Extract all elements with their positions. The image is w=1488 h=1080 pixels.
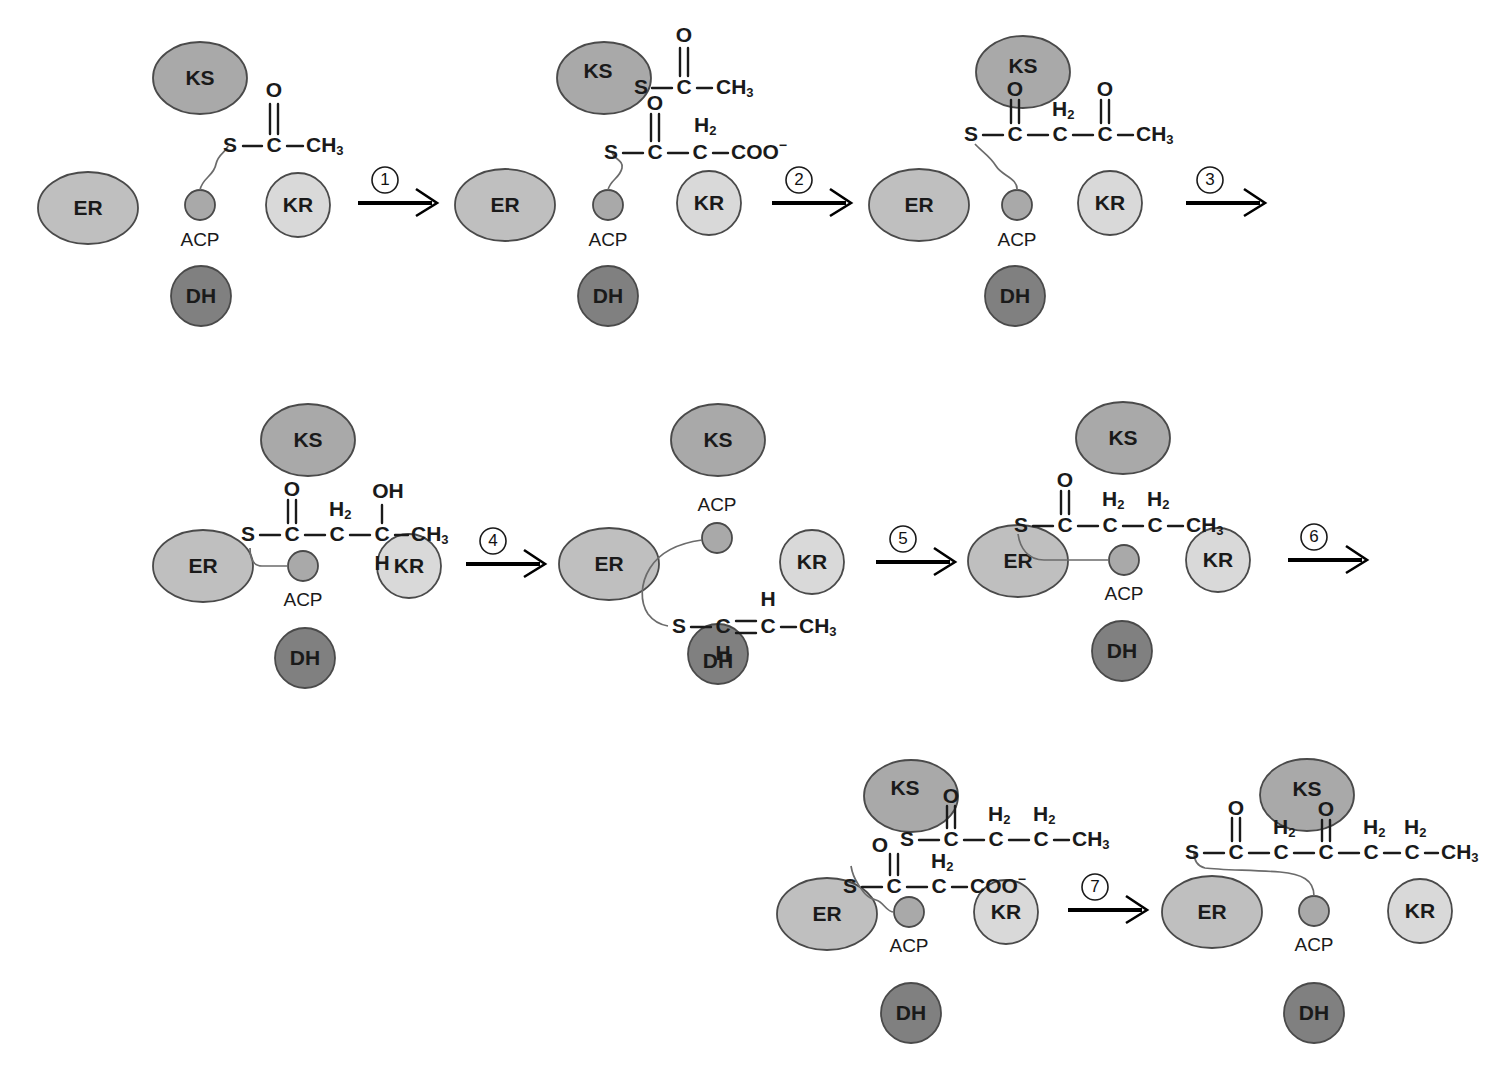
domain-ks-label: KS <box>583 59 612 82</box>
step-arrow-6[interactable]: 6 <box>1288 524 1367 573</box>
atom-c1: C <box>715 614 730 637</box>
domain-acp-label: ACP <box>889 935 928 956</box>
step-1-number: 1 <box>380 170 389 189</box>
domain-kr-label: KR <box>991 900 1021 923</box>
atom-s: S <box>672 614 686 637</box>
domain-acp-shape[interactable] <box>894 897 924 927</box>
step-2-number: 2 <box>794 170 803 189</box>
atom-c3: C <box>374 522 389 545</box>
atom-c3: C <box>1318 840 1333 863</box>
atom-ch3-top: CH3 <box>1072 827 1110 853</box>
atom-o1: O <box>1057 468 1073 491</box>
atom-s: S <box>1014 513 1028 536</box>
atom-c1: C <box>1057 513 1072 536</box>
atom-c2: C <box>1102 513 1117 536</box>
domain-acp-label: ACP <box>588 229 627 250</box>
group-h2: H2 <box>694 113 716 139</box>
atom-s: S <box>843 874 857 897</box>
atom-c3-top: C <box>1033 827 1048 850</box>
atom-c2-top: C <box>988 827 1003 850</box>
domain-kr-label: KR <box>797 550 827 573</box>
domain-ks-label: KS <box>890 776 919 799</box>
domain-kr-label: KR <box>694 191 724 214</box>
domain-ks-label: KS <box>703 428 732 451</box>
domain-er-label: ER <box>812 902 841 925</box>
atom-c3: C <box>1097 122 1112 145</box>
domain-acp-shape[interactable] <box>1299 896 1329 926</box>
group-h2: H2 <box>1052 97 1074 123</box>
atom-ch3: CH3 <box>411 522 449 548</box>
step-arrow-4[interactable]: 4 <box>466 528 545 577</box>
group-h2-c: H2 <box>1404 815 1426 841</box>
group-h2: H2 <box>329 497 351 523</box>
atom-h-below: H <box>374 551 389 574</box>
atom-o1: O <box>647 91 663 114</box>
domain-dh-label: DH <box>1000 284 1030 307</box>
acp-tether <box>250 548 288 566</box>
group-h2-top-b: H2 <box>1033 802 1055 828</box>
domain-ks-label: KS <box>1008 54 1037 77</box>
atom-o1: O <box>266 78 282 101</box>
atom-o2: O <box>1318 797 1334 820</box>
domain-acp-shape[interactable] <box>185 190 215 220</box>
atom-c1: C <box>647 140 662 163</box>
domain-er-label: ER <box>188 554 217 577</box>
step-arrow-3[interactable]: 3 <box>1186 167 1265 216</box>
atom-c-top: C <box>676 75 691 98</box>
step-arrow-7[interactable]: 7 <box>1068 874 1147 923</box>
step-arrow-1[interactable]: 1 <box>358 167 437 216</box>
atom-ch3: CH3 <box>1136 122 1174 148</box>
group-h2: H2 <box>931 849 953 875</box>
domain-dh-label: DH <box>593 284 623 307</box>
atom-o1: O <box>1007 77 1023 100</box>
domain-acp-shape[interactable] <box>288 551 318 581</box>
group-coo: COO− <box>731 137 787 163</box>
step-arrow-2[interactable]: 2 <box>772 167 851 216</box>
step-6-number: 6 <box>1309 527 1318 546</box>
atom-o-top: O <box>676 23 692 46</box>
step-7-number: 7 <box>1090 877 1099 896</box>
domain-dh-label: DH <box>1107 639 1137 662</box>
atom-ch3-top: CH3 <box>716 75 754 101</box>
domain-acp-shape[interactable] <box>702 523 732 553</box>
atom-c1: C <box>1007 122 1022 145</box>
atom-o2: O <box>1097 77 1113 100</box>
domain-acp-label: ACP <box>997 229 1036 250</box>
domain-dh-label: DH <box>896 1001 926 1024</box>
group-h2-top-a: H2 <box>988 802 1010 828</box>
panel-1: KS ER KR DH ACP S C O CH3 <box>38 42 344 326</box>
group-h2-b: H2 <box>1147 487 1169 513</box>
atom-c1: C <box>1228 840 1243 863</box>
domain-acp-label: ACP <box>283 589 322 610</box>
atom-c2: C <box>760 614 775 637</box>
panel-7: KS ER KR DH ACP S C O C H2 C H2 CH3 S C … <box>777 760 1110 1043</box>
domain-kr-label: KR <box>1203 548 1233 571</box>
domain-acp-shape[interactable] <box>1002 190 1032 220</box>
atom-ch3: CH3 <box>1441 840 1479 866</box>
atom-o-top: O <box>943 784 959 807</box>
diagram-canvas: KS ER KR DH ACP S C O CH3 1 KS ER KR <box>0 0 1488 1080</box>
domain-kr-label: KR <box>394 554 424 577</box>
group-oh: OH <box>372 479 404 502</box>
domain-dh-label: DH <box>186 284 216 307</box>
atom-c2: C <box>1273 840 1288 863</box>
atom-h-below: H <box>715 641 730 664</box>
fatty-acid-synthase-scheme: KS ER KR DH ACP S C O CH3 1 KS ER KR <box>0 0 1488 1080</box>
step-arrow-5[interactable]: 5 <box>876 526 955 575</box>
domain-dh-label: DH <box>1299 1001 1329 1024</box>
atom-h-above: H <box>760 587 775 610</box>
domain-acp-label: ACP <box>180 229 219 250</box>
domain-acp-shape[interactable] <box>1109 545 1139 575</box>
atom-s: S <box>604 140 618 163</box>
domain-kr-label: KR <box>1095 191 1125 214</box>
domain-ks-label: KS <box>185 66 214 89</box>
domain-acp-shape[interactable] <box>593 190 623 220</box>
panel-4: KS ER KR DH ACP S C O C H2 C OH H CH3 <box>153 404 449 688</box>
atom-s: S <box>223 133 237 156</box>
atom-c4: C <box>1363 840 1378 863</box>
domain-er-label: ER <box>490 193 519 216</box>
atom-s: S <box>964 122 978 145</box>
domain-er-label: ER <box>1197 900 1226 923</box>
domain-ks-label: KS <box>293 428 322 451</box>
domain-kr-label: KR <box>1405 899 1435 922</box>
